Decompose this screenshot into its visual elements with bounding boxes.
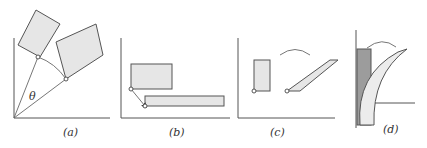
panel-label-c: (c) (270, 126, 285, 139)
theta-label: θ (29, 90, 36, 103)
panel-b: (b) (121, 38, 230, 139)
original-vertex-point (64, 77, 68, 81)
shear-arc-arrow (280, 50, 310, 56)
original-corner-point (252, 89, 256, 93)
bend-arc-arrow (367, 42, 396, 48)
panel-c: (c) (238, 38, 338, 139)
panel-a: θ (a) (14, 10, 110, 139)
translation-arrow (131, 89, 145, 106)
original-rectangle (56, 24, 103, 79)
panel-label-a: (a) (63, 126, 78, 139)
transformed-corner-point (143, 104, 147, 108)
original-rectangle (254, 60, 270, 91)
transformations-figure: θ (a) (b) (c) (d) (0, 0, 427, 148)
panel-label-d: (d) (383, 123, 399, 136)
rotated-rectangle (18, 10, 60, 57)
original-corner-point (129, 87, 133, 91)
sheared-parallelogram (287, 60, 338, 91)
rotated-vertex-point (36, 55, 40, 59)
panel-d: (d) (356, 30, 415, 136)
panel-label-b: (b) (169, 126, 185, 139)
sheared-corner-point (285, 89, 289, 93)
transformed-rectangle (145, 96, 224, 106)
original-rectangle (131, 64, 172, 89)
